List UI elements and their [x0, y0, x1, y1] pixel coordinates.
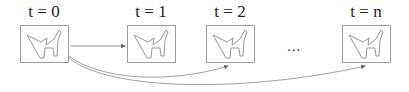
cat-silhouette-icon: [343, 26, 392, 64]
ellipsis: ...: [287, 38, 301, 55]
frame-t2: [206, 25, 255, 63]
frame-t1: [127, 25, 176, 63]
cat-silhouette-icon: [128, 26, 177, 64]
frame-label-t1: t = 1: [135, 2, 166, 22]
cat-silhouette-icon: [21, 26, 70, 64]
cat-silhouette-icon: [207, 26, 256, 64]
frame-tn: [342, 25, 391, 63]
frame-label-tn: t = n: [350, 2, 381, 22]
frame-label-t2: t = 2: [214, 2, 245, 22]
frame-label-t0: t = 0: [28, 2, 59, 22]
frame-t0: [20, 25, 69, 63]
